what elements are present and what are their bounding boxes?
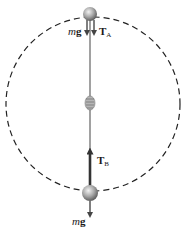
diagram-canvas — [0, 0, 188, 237]
top-ball — [83, 7, 97, 21]
gravity-symbol: g — [76, 25, 82, 37]
bottom-ball — [82, 185, 98, 201]
mass-symbol: m — [68, 25, 76, 37]
gravity-symbol: g — [80, 215, 86, 227]
knot-icon — [85, 96, 95, 110]
mass-symbol: m — [72, 215, 80, 227]
vertical-circle-diagram: mg TA TB mg — [0, 0, 188, 237]
subscript-b: B — [104, 160, 109, 168]
subscript-a: A — [106, 31, 111, 39]
mg-bottom-label: mg — [72, 216, 85, 227]
tb-label: TB — [97, 155, 109, 168]
ta-label: TA — [99, 26, 111, 39]
mg-top-label: mg — [68, 26, 81, 37]
